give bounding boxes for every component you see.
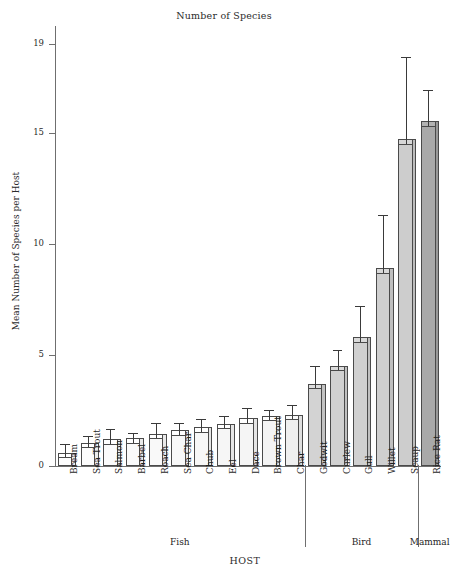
error-bar-stem: [179, 423, 180, 435]
error-bar-stem: [338, 350, 339, 370]
error-bar-stem: [406, 57, 407, 144]
error-bar-cap: [423, 90, 433, 91]
error-bar-cap: [378, 215, 388, 216]
x-axis-category-label: Brown Trout: [273, 416, 283, 474]
error-bar-cap: [196, 419, 206, 420]
error-bar-cap: [287, 405, 297, 406]
error-bar-cap: [151, 423, 161, 424]
bar: [353, 342, 368, 466]
x-axis-category-label: Chub: [205, 450, 215, 474]
error-bar-cap: [355, 306, 365, 307]
error-bar-stem: [315, 366, 316, 388]
error-bar-cap: [264, 410, 274, 411]
x-axis-category-label: Roach: [160, 446, 170, 474]
y-axis-tick-label: 15: [0, 127, 44, 137]
error-bar-stem: [133, 433, 134, 443]
error-bar-stem: [292, 405, 293, 419]
error-bar-stem: [360, 306, 361, 342]
error-bar-stem: [65, 444, 66, 457]
error-bar-cap: [310, 366, 320, 367]
x-axis-category-label: Godwit: [319, 441, 329, 474]
x-axis-category-label: Barbel: [137, 444, 147, 474]
x-axis-line: [55, 466, 441, 467]
y-axis-tick: [49, 355, 56, 356]
error-bar-stem: [201, 419, 202, 431]
error-bar-stem: [428, 90, 429, 126]
group-label: Mammal: [388, 537, 454, 547]
bar: [376, 273, 391, 466]
error-bar-cap: [219, 416, 229, 417]
error-bar-stem: [156, 423, 157, 439]
x-axis-category-label: Salmon: [114, 440, 124, 474]
group-separator: [305, 465, 306, 547]
y-axis-line: [55, 26, 56, 467]
error-bar-cap: [333, 350, 343, 351]
error-bar-cap: [106, 429, 116, 430]
bar: [421, 126, 436, 466]
error-bar-cap: [401, 57, 411, 58]
y-axis-tick: [49, 44, 56, 45]
error-bar-stem: [224, 416, 225, 428]
error-bar-stem: [247, 408, 248, 422]
group-separator: [418, 465, 419, 547]
y-axis-tick-label: 10: [0, 238, 44, 248]
error-bar-cap: [242, 408, 252, 409]
chart-title: Number of Species: [0, 10, 448, 21]
x-axis-category-label: Sea Char: [183, 432, 193, 474]
y-axis-label: Mean Number of Species per Host: [11, 151, 21, 351]
x-axis-category-label: Curlew: [342, 441, 352, 474]
x-axis-category-label: Dace: [251, 451, 261, 474]
x-axis-category-label: Bream: [69, 444, 79, 474]
y-axis-tick: [49, 133, 56, 134]
error-bar-stem: [383, 215, 384, 273]
error-bar-stem: [110, 429, 111, 443]
x-axis-label: HOST: [0, 555, 454, 566]
y-axis-tick: [49, 466, 56, 467]
x-axis-category-label: Eel: [228, 459, 238, 474]
y-axis-tick-label: 5: [0, 349, 44, 359]
bar: [398, 144, 413, 466]
error-bar-stem: [88, 436, 89, 447]
error-bar-cap: [128, 433, 138, 434]
error-bar-cap: [174, 423, 184, 424]
x-axis-category-label: Gull: [364, 455, 374, 474]
y-axis-tick: [49, 244, 56, 245]
error-bar-stem: [269, 410, 270, 420]
y-axis-tick-label: 0: [0, 460, 44, 470]
x-axis-category-label: Rice Rat: [432, 435, 442, 474]
y-axis-tick-label: 19: [0, 38, 44, 48]
x-axis-category-label: Sea Trout: [92, 429, 102, 474]
x-axis-category-label: Willet: [387, 447, 397, 474]
